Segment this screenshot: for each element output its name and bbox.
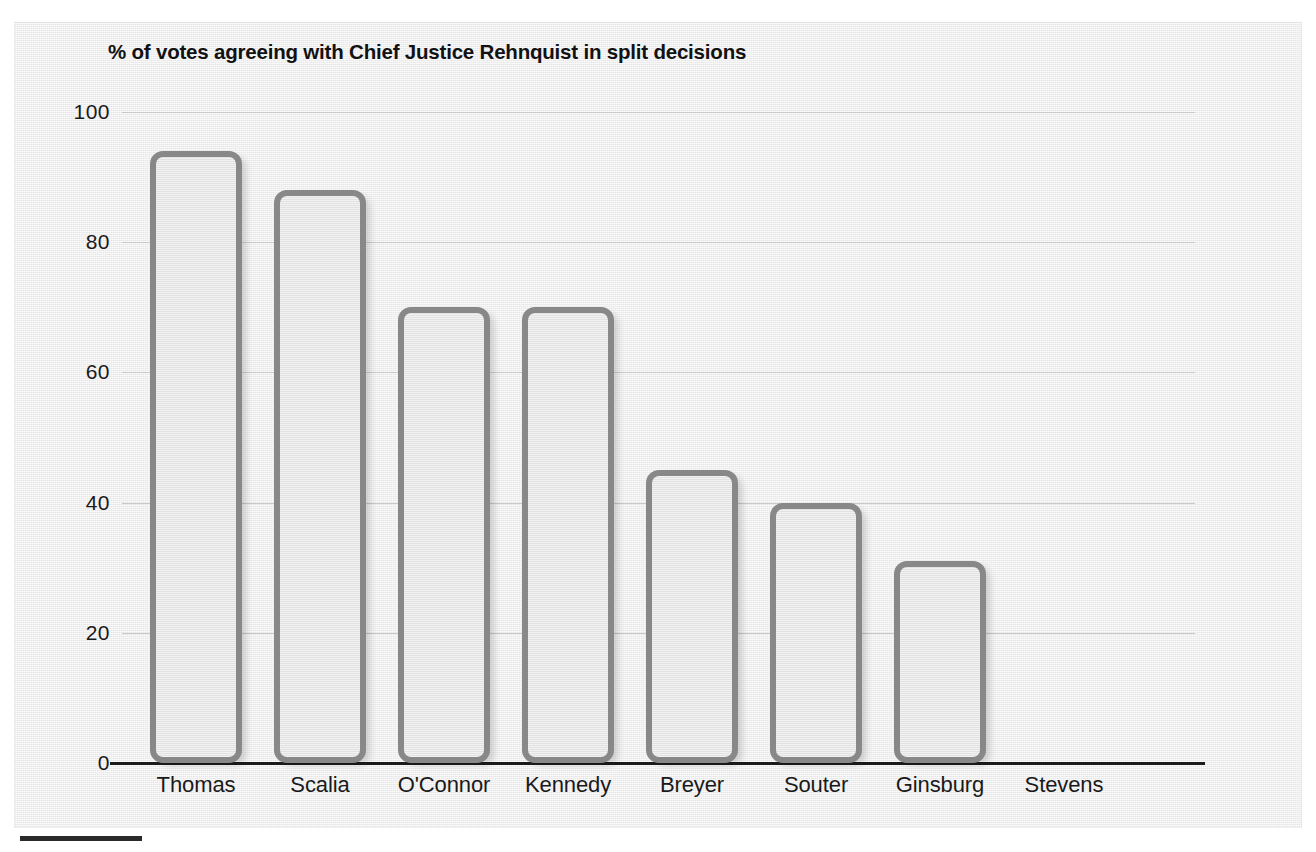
bar-kennedy bbox=[522, 307, 614, 763]
footer-divider bbox=[20, 836, 142, 841]
chart-page: % of votes agreeing with Chief Justice R… bbox=[0, 0, 1316, 852]
y-tick-label: 60 bbox=[40, 360, 110, 384]
x-tick-label: Ginsburg bbox=[878, 772, 1002, 798]
y-tick-label: 0 bbox=[40, 751, 110, 775]
bar-slot bbox=[630, 112, 754, 763]
y-tick-label: 20 bbox=[40, 621, 110, 645]
y-axis: 020406080100 bbox=[38, 112, 110, 763]
bar-thomas bbox=[150, 151, 242, 763]
bar-slot bbox=[754, 112, 878, 763]
x-tick-label: Breyer bbox=[630, 772, 754, 798]
y-tick-label: 80 bbox=[40, 230, 110, 254]
bar-ginsburg bbox=[894, 561, 986, 763]
bar-scalia bbox=[274, 190, 366, 763]
x-tick-label: Scalia bbox=[258, 772, 382, 798]
bar-slot bbox=[382, 112, 506, 763]
bar-slot bbox=[506, 112, 630, 763]
y-tick-label: 100 bbox=[40, 100, 110, 124]
x-tick-label: Thomas bbox=[134, 772, 258, 798]
bar-series bbox=[122, 112, 1195, 763]
bar-slot bbox=[134, 112, 258, 763]
x-tick-label: Stevens bbox=[1002, 772, 1126, 798]
x-tick-label: Kennedy bbox=[506, 772, 630, 798]
y-tick-label: 40 bbox=[40, 491, 110, 515]
bar-oconnor bbox=[398, 307, 490, 763]
bar-slot bbox=[878, 112, 1002, 763]
x-axis: ThomasScaliaO'ConnorKennedyBreyerSouterG… bbox=[122, 772, 1195, 812]
bar-souter bbox=[770, 503, 862, 763]
bar-slot bbox=[1002, 112, 1126, 763]
x-tick-label: Souter bbox=[754, 772, 878, 798]
bar-slot bbox=[258, 112, 382, 763]
x-tick-label: O'Connor bbox=[382, 772, 506, 798]
chart-title: % of votes agreeing with Chief Justice R… bbox=[108, 40, 746, 64]
bar-breyer bbox=[646, 470, 738, 763]
